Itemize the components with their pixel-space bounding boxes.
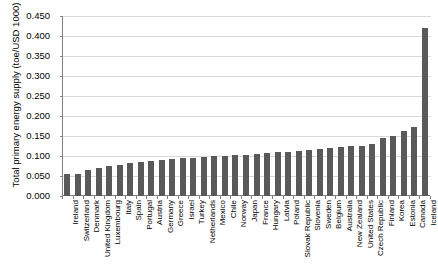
bar bbox=[348, 146, 354, 196]
y-tick-label: 0.100 bbox=[0, 151, 50, 161]
x-tick-label: Chile bbox=[229, 200, 238, 276]
bar bbox=[285, 152, 291, 196]
x-tick-label: Portugal bbox=[145, 200, 154, 276]
x-tick-label: Spain bbox=[134, 200, 143, 276]
bar bbox=[75, 174, 81, 196]
x-tick-mark bbox=[335, 196, 336, 199]
x-tick-label: Italy bbox=[124, 200, 133, 276]
x-tick-mark bbox=[356, 196, 357, 199]
bar bbox=[201, 157, 207, 196]
bar bbox=[127, 163, 133, 196]
x-tick-label: Ireland bbox=[71, 200, 80, 276]
x-tick-mark bbox=[283, 196, 284, 199]
x-tick-label: Finland bbox=[387, 200, 396, 276]
x-tick-label: Slovak Republic bbox=[303, 200, 312, 276]
x-tick-mark bbox=[367, 196, 368, 199]
bars-container bbox=[62, 16, 430, 196]
x-tick-label: France bbox=[261, 200, 270, 276]
bar bbox=[222, 156, 228, 196]
x-tick-label: Iceland bbox=[429, 200, 438, 276]
y-tick-label: 0.450 bbox=[0, 11, 50, 21]
y-tick-label: 0.250 bbox=[0, 91, 50, 101]
x-tick-mark bbox=[94, 196, 95, 199]
x-tick-mark bbox=[157, 196, 158, 199]
x-tick-label: Mexico bbox=[218, 200, 227, 276]
x-tick-mark bbox=[178, 196, 179, 199]
bar bbox=[117, 165, 123, 196]
x-tick-mark bbox=[262, 196, 263, 199]
x-tick-mark bbox=[346, 196, 347, 199]
x-tick-label: Netherlands bbox=[208, 200, 217, 276]
x-tick-mark bbox=[209, 196, 210, 199]
x-tick-label: Slovenia bbox=[313, 200, 322, 276]
x-tick-label: Austria bbox=[155, 200, 164, 276]
bar bbox=[138, 162, 144, 196]
bar bbox=[338, 147, 344, 196]
y-tick-label: 0.150 bbox=[0, 131, 50, 141]
bar bbox=[232, 155, 238, 196]
x-tick-label: New Zealand bbox=[355, 200, 364, 276]
bar bbox=[380, 138, 386, 196]
x-tick-mark bbox=[146, 196, 147, 199]
x-tick-label: Norway bbox=[239, 200, 248, 276]
x-tick-mark bbox=[409, 196, 410, 199]
x-tick-label: Switzerland bbox=[82, 200, 91, 276]
bar bbox=[180, 158, 186, 196]
x-tick-label: Czech Republic bbox=[376, 200, 385, 276]
y-tick-label: 0.050 bbox=[0, 171, 50, 181]
x-tick-label: United Kingdom bbox=[103, 200, 112, 276]
bar bbox=[327, 148, 333, 196]
bar bbox=[211, 156, 217, 196]
x-tick-label: Korea bbox=[397, 200, 406, 276]
bar bbox=[64, 174, 70, 196]
x-axis-ticks bbox=[62, 196, 430, 199]
bar bbox=[254, 154, 260, 196]
y-tick-label: 0.200 bbox=[0, 111, 50, 121]
x-tick-mark bbox=[83, 196, 84, 199]
x-tick-mark bbox=[398, 196, 399, 199]
x-tick-mark bbox=[430, 196, 431, 199]
bar bbox=[317, 149, 323, 196]
bar bbox=[411, 127, 417, 196]
x-tick-label: Japan bbox=[250, 200, 259, 276]
x-tick-mark bbox=[136, 196, 137, 199]
bar bbox=[148, 161, 154, 196]
bar bbox=[401, 131, 407, 196]
x-tick-mark bbox=[167, 196, 168, 199]
bar bbox=[85, 170, 91, 196]
x-tick-mark bbox=[125, 196, 126, 199]
bar bbox=[243, 155, 249, 196]
x-tick-mark bbox=[377, 196, 378, 199]
x-tick-label: Sweden bbox=[324, 200, 333, 276]
x-tick-mark bbox=[199, 196, 200, 199]
y-tick-label: 0.350 bbox=[0, 51, 50, 61]
x-tick-mark bbox=[325, 196, 326, 199]
x-axis-labels: IrelandSwitzerlandDenmarkUnited KingdomL… bbox=[62, 200, 430, 278]
y-tick-label: 0.300 bbox=[0, 71, 50, 81]
x-tick-mark bbox=[314, 196, 315, 199]
x-tick-label: Turkey bbox=[197, 200, 206, 276]
bar bbox=[296, 151, 302, 196]
x-tick-label: Belgium bbox=[334, 200, 343, 276]
x-tick-mark bbox=[419, 196, 420, 199]
bar bbox=[306, 150, 312, 196]
x-tick-label: Estonia bbox=[408, 200, 417, 276]
bar bbox=[369, 144, 375, 196]
bar bbox=[169, 159, 175, 196]
x-tick-mark bbox=[115, 196, 116, 199]
x-tick-label: Greece bbox=[176, 200, 185, 276]
x-tick-mark bbox=[251, 196, 252, 199]
x-tick-mark bbox=[220, 196, 221, 199]
x-tick-mark bbox=[230, 196, 231, 199]
bar bbox=[190, 158, 196, 196]
y-tick-label: 0.400 bbox=[0, 31, 50, 41]
x-tick-mark bbox=[104, 196, 105, 199]
x-tick-mark bbox=[388, 196, 389, 199]
x-tick-mark bbox=[272, 196, 273, 199]
bar bbox=[359, 146, 365, 196]
x-tick-mark bbox=[62, 196, 63, 199]
x-tick-label: Hungary bbox=[271, 200, 280, 276]
x-tick-label: Poland bbox=[292, 200, 301, 276]
x-tick-label: Australia bbox=[345, 200, 354, 276]
